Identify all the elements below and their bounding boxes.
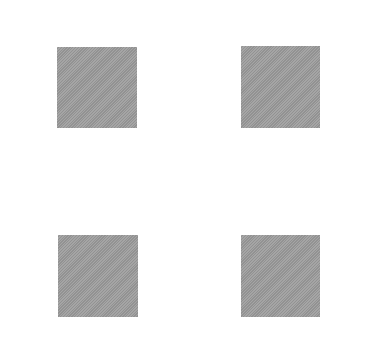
canvas [0,0,391,350]
gray-square-bottom-left [58,235,138,317]
gray-square-bottom-right [241,235,320,317]
gray-square-top-left [57,47,137,128]
gray-square-top-right [241,46,320,128]
